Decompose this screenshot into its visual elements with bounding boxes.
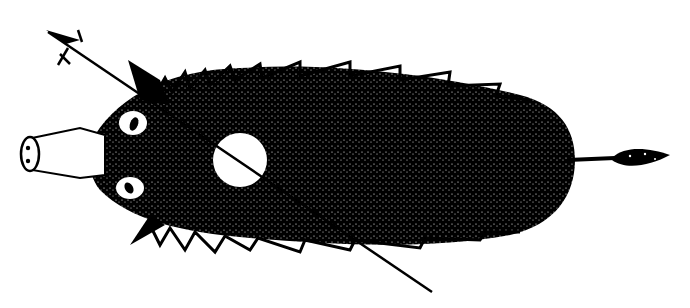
target-circle — [213, 133, 267, 187]
illustration-canvas — [0, 0, 690, 308]
snout — [21, 128, 105, 178]
nostril-icon — [26, 146, 30, 150]
eye-upper — [119, 111, 147, 135]
nostril-icon — [26, 159, 30, 163]
eye-lower — [116, 177, 144, 199]
tail — [568, 149, 670, 166]
pig-illustration — [0, 0, 690, 308]
